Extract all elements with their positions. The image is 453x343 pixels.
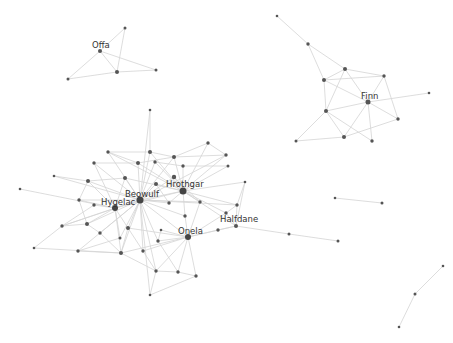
- graph-node-m34: [119, 237, 122, 240]
- graph-node-m10: [181, 164, 184, 167]
- graph-node-f11: [370, 139, 373, 142]
- graph-node-m19: [92, 203, 95, 206]
- graph-node-f8: [396, 117, 399, 120]
- graph-node-o2: [67, 78, 70, 81]
- graph-node-m40: [194, 274, 197, 277]
- graph-node-m38: [154, 269, 157, 272]
- graph-node-m9: [224, 153, 227, 156]
- graph-node-m11: [227, 165, 230, 168]
- graph-node-p1: [334, 197, 337, 200]
- graph-node-f3: [343, 67, 347, 71]
- graph-node-f4: [322, 78, 326, 82]
- graph-node-f9: [342, 135, 346, 139]
- graph-node-m5: [136, 161, 140, 165]
- graph-node-m25: [183, 214, 186, 217]
- graph-node-m15: [123, 176, 127, 180]
- graph-node-m33: [76, 249, 79, 252]
- graph-node-f6: [428, 92, 431, 95]
- graph-node-f1: [276, 15, 279, 18]
- graph-node-m32: [33, 247, 36, 250]
- graph-node-q1: [288, 233, 291, 236]
- graph-node-m39: [176, 270, 179, 273]
- graph-node-halfdane: [234, 224, 238, 228]
- node-label-hrothgar: Hrothgar: [166, 179, 204, 189]
- graph-node-o1: [124, 27, 127, 30]
- graph-node-m29: [126, 226, 130, 230]
- graph-node-m27: [85, 222, 89, 226]
- graph-node-m3: [106, 150, 109, 153]
- graph-node-m30: [160, 229, 163, 232]
- graph-node-m23: [235, 203, 238, 206]
- graph-background: [0, 0, 453, 343]
- graph-node-f10: [295, 140, 298, 143]
- graph-node-m12: [53, 175, 56, 178]
- graph-node-m1: [149, 109, 152, 112]
- graph-node-f5: [382, 74, 385, 77]
- graph-node-m14: [86, 179, 90, 183]
- graph-node-m28: [98, 231, 101, 234]
- graph-node-m20: [167, 201, 170, 204]
- graph-node-m26: [60, 224, 63, 227]
- network-graph: OffaFinnBeowulfHrothgarHygelacOnelaHalfd…: [0, 0, 453, 343]
- graph-node-f2: [306, 42, 309, 45]
- graph-node-q2: [337, 240, 340, 243]
- graph-node-o3: [115, 70, 119, 74]
- graph-node-m13: [19, 188, 22, 191]
- graph-node-f7: [324, 109, 328, 113]
- graph-node-s1: [442, 265, 445, 268]
- graph-node-m41: [149, 294, 152, 297]
- graph-node-m36: [119, 251, 123, 255]
- graph-node-m16: [154, 182, 158, 186]
- node-label-hygelac: Hygelac: [101, 197, 136, 207]
- graph-node-m8: [206, 141, 209, 144]
- node-label-offa: Offa: [92, 40, 110, 50]
- graph-node-m2: [148, 150, 152, 154]
- graph-node-m6: [153, 160, 156, 163]
- node-label-finn: Finn: [361, 91, 378, 101]
- graph-node-s2: [414, 293, 417, 296]
- node-label-halfdane: Halfdane: [220, 214, 258, 224]
- graph-node-o4: [155, 69, 158, 72]
- node-label-onela: Onela: [178, 226, 203, 236]
- graph-node-m18: [77, 198, 80, 201]
- graph-node-s3: [398, 326, 401, 329]
- graph-node-m7: [172, 155, 176, 159]
- graph-node-m35: [141, 249, 144, 252]
- graph-node-m21: [198, 200, 201, 203]
- graph-node-p2: [381, 202, 384, 205]
- graph-node-m22: [244, 181, 247, 184]
- graph-node-m4: [92, 161, 95, 164]
- graph-node-m31: [216, 228, 219, 231]
- graph-node-m37: [156, 239, 159, 242]
